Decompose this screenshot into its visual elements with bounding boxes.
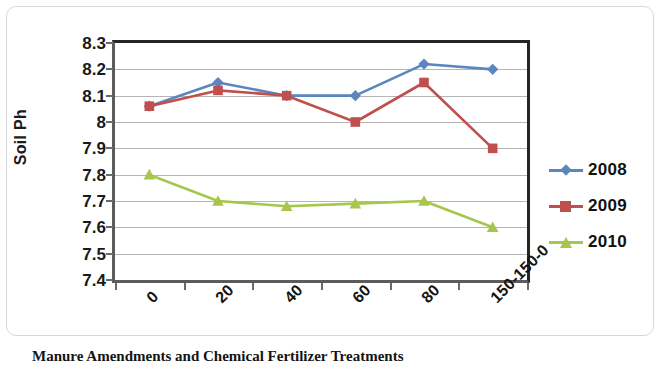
legend-symbol <box>560 237 572 248</box>
x-axis-tick-mark <box>252 283 254 290</box>
y-axis-tick-mark <box>106 200 113 202</box>
y-axis-tick-label: 7.7 <box>54 193 106 210</box>
plot-area <box>112 40 530 283</box>
x-axis-tick-mark <box>458 283 460 290</box>
chart-legend: 200820092010 <box>549 152 653 260</box>
x-axis-tick-mark <box>390 283 392 290</box>
gridline <box>115 175 527 176</box>
y-axis-tick-mark <box>106 174 113 176</box>
x-axis-tick-mark <box>527 283 529 290</box>
x-axis-tick-label: 60 <box>349 281 375 307</box>
y-axis-tick-label: 7.9 <box>54 140 106 157</box>
y-axis-tick-label: 8.2 <box>54 61 106 78</box>
plot-canvas <box>115 43 527 280</box>
y-axis-tick-label: 8 <box>54 114 106 131</box>
y-axis-tick-label: 8.1 <box>54 87 106 104</box>
gridline <box>115 96 527 97</box>
gridline <box>115 254 527 255</box>
x-axis-tick-mark <box>184 283 186 290</box>
legend-marker-diamond-icon <box>549 162 583 178</box>
legend-label: 2008 <box>588 160 627 180</box>
y-axis-tick-mark <box>106 279 113 281</box>
y-axis-tick-label: 8.3 <box>54 35 106 52</box>
x-axis-tick-label: 80 <box>418 281 444 307</box>
legend-symbol <box>560 201 571 212</box>
legend-marker-square-icon <box>549 198 583 214</box>
y-axis-tick-label: 7.5 <box>54 245 106 262</box>
y-axis-tick-mark <box>106 253 113 255</box>
y-axis-tick-mark <box>106 226 113 228</box>
legend-item-2010[interactable]: 2010 <box>549 224 653 260</box>
gridline <box>115 69 527 70</box>
y-axis-tick-label: 7.6 <box>54 219 106 236</box>
figure-caption: Manure Amendments and Chemical Fertilize… <box>32 348 403 365</box>
x-axis-tick-mark <box>321 283 323 290</box>
y-axis-tick-mark <box>106 121 113 123</box>
gridline <box>115 122 527 123</box>
legend-marker-triangle-icon <box>549 234 583 250</box>
chart-figure: Soil Ph 7.47.57.67.77.87.988.18.28.3 020… <box>0 0 662 374</box>
gridline <box>115 148 527 149</box>
y-axis-tick-label: 7.8 <box>54 166 106 183</box>
legend-symbol <box>560 164 571 175</box>
gridline <box>115 201 527 202</box>
legend-item-2008[interactable]: 2008 <box>549 152 653 188</box>
y-axis-tick-mark <box>106 147 113 149</box>
x-axis-tick-label: 40 <box>281 281 307 307</box>
legend-label: 2009 <box>588 196 627 216</box>
x-axis-tick-label: 20 <box>212 281 238 307</box>
gridline <box>115 227 527 228</box>
y-axis-tick-label: 7.4 <box>54 272 106 289</box>
y-axis-tick-labels: 7.47.57.67.77.87.988.18.28.3 <box>52 40 106 283</box>
y-axis-title: Soil Ph <box>12 92 30 182</box>
y-axis-tick-mark <box>106 68 113 70</box>
legend-label: 2010 <box>588 232 627 252</box>
x-axis-tick-mark <box>115 283 117 290</box>
y-axis-tick-mark <box>106 42 113 44</box>
y-axis-tick-mark <box>106 95 113 97</box>
legend-item-2009[interactable]: 2009 <box>549 188 653 224</box>
x-axis-tick-label: 0 <box>143 288 162 307</box>
